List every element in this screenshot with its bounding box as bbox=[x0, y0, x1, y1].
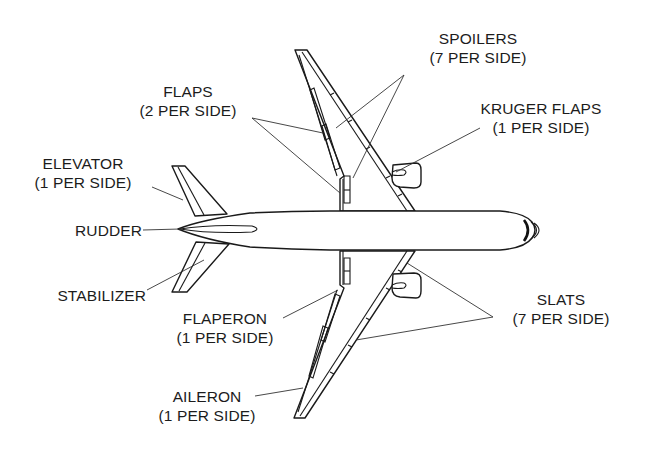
aileron-count: (1 PER SIDE) bbox=[142, 406, 272, 425]
label-rudder: RUDDER bbox=[60, 221, 142, 240]
rudder-leader bbox=[143, 229, 180, 230]
label-stabilizer: STABILIZER bbox=[40, 286, 146, 305]
kruger-flaps-name: KRUGER FLAPS bbox=[466, 99, 616, 118]
elevator-leader bbox=[152, 187, 183, 200]
label-flaperon: FLAPERON (1 PER SIDE) bbox=[160, 309, 290, 347]
aircraft-control-surfaces-diagram: SPOILERS (7 PER SIDE) FLAPS (2 PER SIDE)… bbox=[0, 0, 654, 451]
aileron-name: AILERON bbox=[142, 387, 272, 406]
elevator-name: ELEVATOR bbox=[18, 154, 148, 173]
elevator-count: (1 PER SIDE) bbox=[18, 173, 148, 192]
slats-name: SLATS bbox=[496, 290, 626, 309]
fuselage bbox=[178, 211, 539, 250]
label-aileron: AILERON (1 PER SIDE) bbox=[142, 387, 272, 425]
kruger-flaps-count: (1 PER SIDE) bbox=[466, 118, 616, 137]
upper-horizontal-stabilizer bbox=[172, 166, 227, 216]
label-slats: SLATS (7 PER SIDE) bbox=[496, 290, 626, 328]
rudder-name: RUDDER bbox=[60, 221, 142, 240]
slats-leader-2 bbox=[356, 317, 493, 340]
slats-count: (7 PER SIDE) bbox=[496, 309, 626, 328]
label-spoilers: SPOILERS (7 PER SIDE) bbox=[408, 29, 548, 67]
flaps-leader-1 bbox=[252, 118, 323, 133]
spoilers-leader-1 bbox=[336, 75, 404, 128]
lower-engine-nacelle bbox=[392, 273, 421, 298]
label-kruger-flaps: KRUGER FLAPS (1 PER SIDE) bbox=[466, 99, 616, 137]
flaperon-count: (1 PER SIDE) bbox=[160, 328, 290, 347]
lower-horizontal-stabilizer bbox=[172, 242, 229, 292]
flaperon-name: FLAPERON bbox=[160, 309, 290, 328]
spoilers-name: SPOILERS bbox=[408, 29, 548, 48]
stabilizer-name: STABILIZER bbox=[40, 286, 146, 305]
label-elevator: ELEVATOR (1 PER SIDE) bbox=[18, 154, 148, 192]
spoilers-count: (7 PER SIDE) bbox=[408, 48, 548, 67]
flaps-count: (2 PER SIDE) bbox=[118, 101, 258, 120]
flaps-name: FLAPS bbox=[118, 82, 258, 101]
label-flaps: FLAPS (2 PER SIDE) bbox=[118, 82, 258, 120]
